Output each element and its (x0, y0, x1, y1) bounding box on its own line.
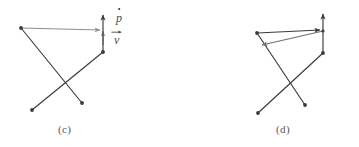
overdot-accent-icon (118, 8, 120, 10)
horizontal-momentum-arrow (21, 28, 100, 30)
link-topleft-to-lowerright (21, 28, 82, 103)
vector-arrow-accent-icon (111, 30, 122, 34)
link-topleft-to-lowerright (257, 33, 305, 105)
panel-c-diagram (0, 0, 180, 147)
vertex-lower-left (256, 111, 260, 115)
vertex-right-mid (101, 50, 105, 54)
vertex-arrow-origin (321, 29, 324, 32)
vertex-lower-right (80, 101, 84, 105)
horizontal-top-arrow (257, 30, 320, 33)
vertex-top-left (19, 26, 23, 30)
caption-panel-c: (c) (58, 123, 71, 135)
link-rightmid-to-lowerleft (32, 52, 103, 110)
label-v-vector: v (114, 34, 119, 46)
diagonal-q-arrow (262, 31, 323, 45)
vertex-right-mid (321, 51, 325, 55)
link-rightmid-to-lowerleft (258, 53, 323, 113)
label-v-base: v (114, 33, 119, 47)
panel-c: p v (c) (0, 0, 180, 147)
caption-panel-d: (d) (276, 123, 290, 135)
label-p-dot: p (116, 12, 122, 24)
vertex-lower-left (30, 108, 34, 112)
figure-root: p v (c) (0, 0, 359, 147)
panel-d: q (d) (180, 0, 359, 147)
vertex-top-left (255, 31, 259, 35)
label-p-base: p (116, 11, 122, 25)
vertex-lower-right (303, 103, 307, 107)
panel-d-diagram (180, 0, 359, 147)
